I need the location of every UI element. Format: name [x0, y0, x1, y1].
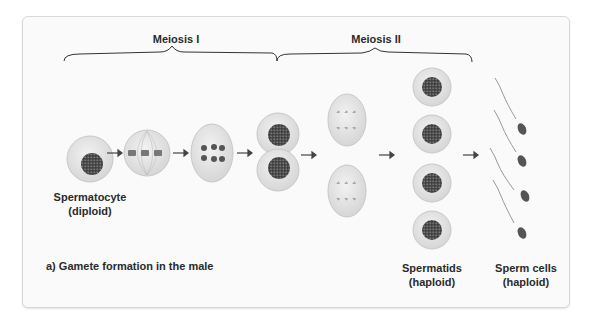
- sperm-cells: [490, 78, 516, 223]
- spermatocyte-cell: [67, 136, 113, 182]
- spermatids: [413, 68, 451, 249]
- meiosis-2-label: Meiosis II: [343, 32, 409, 46]
- figure-caption: a) Gamete formation in the male: [46, 259, 213, 273]
- spermatids-label: Spermatids (haploid): [396, 261, 468, 289]
- meiosis-2-brace: [277, 48, 472, 62]
- metaphase-1-cell: [124, 130, 170, 176]
- anaphase-1-cell: [191, 124, 233, 182]
- meiosis-2-cells: [328, 94, 366, 217]
- sperm-heads: [516, 122, 531, 240]
- meiosis-1-brace: [64, 46, 277, 61]
- sperm-cells-label: Sperm cells (haploid): [490, 261, 562, 289]
- meiosis-1-label: Meiosis I: [146, 32, 206, 46]
- secondary-spermatocytes: [257, 113, 299, 191]
- spermatocyte-label: Spermatocyte (diploid): [40, 190, 140, 218]
